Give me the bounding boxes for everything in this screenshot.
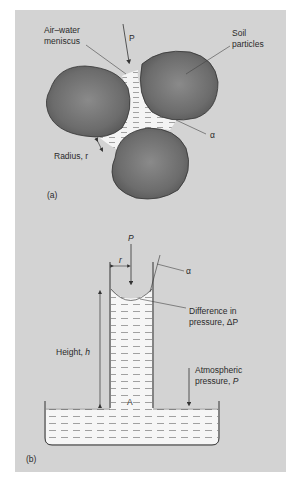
force-label-a: P	[129, 33, 135, 44]
height-label: Height, h	[56, 347, 90, 358]
soil-particle-bottom	[112, 128, 189, 199]
pressure-difference-label: Difference in pressure, ΔP	[189, 306, 238, 327]
reservoir-water	[46, 408, 218, 444]
meniscus-label: Air–water meniscus	[44, 25, 80, 46]
angle-leader-line-b	[157, 264, 184, 271]
soil-particle-left	[46, 66, 130, 137]
contact-angle-tangent	[150, 255, 160, 292]
force-label-b: P	[128, 233, 134, 244]
radius-label-b: r	[119, 255, 122, 266]
panel-a-label: (a)	[47, 190, 57, 201]
atmospheric-pressure-label: Atmospheric pressure, P	[195, 365, 242, 386]
radius-label-a: Radius, r	[54, 151, 88, 162]
angle-label-a: α	[210, 130, 215, 141]
point-a-label: A	[127, 397, 133, 408]
capillary-diagram	[0, 0, 296, 484]
angle-leader-line-a	[176, 120, 206, 134]
particles-label: Soil particles	[232, 28, 264, 49]
radius-arrow-a	[97, 140, 102, 150]
soil-particle-right	[140, 51, 218, 120]
panel-b-label: (b)	[26, 454, 36, 465]
tube-water	[111, 291, 152, 410]
angle-label-b: α	[186, 266, 191, 277]
